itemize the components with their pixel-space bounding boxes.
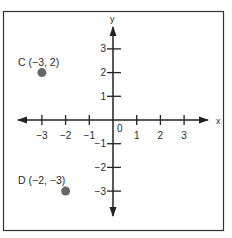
y-axis-label: y xyxy=(110,14,115,24)
y-tick-label: 3 xyxy=(100,43,106,54)
y-tick-label: 1 xyxy=(100,91,106,102)
y-tick-label: −2 xyxy=(95,162,107,173)
origin-label: 0 xyxy=(117,123,123,134)
x-axis-label: x xyxy=(216,116,221,126)
x-tick-label: −3 xyxy=(36,130,48,141)
point-c-marker xyxy=(37,68,46,77)
point-c-label: C (−3, 2) xyxy=(18,56,59,68)
y-tick-label: −1 xyxy=(95,138,107,149)
x-tick-label: −2 xyxy=(60,130,72,141)
y-tick-label: 2 xyxy=(100,67,106,78)
point-d-label: D (−2, −3) xyxy=(18,174,65,186)
y-tick-label: −3 xyxy=(95,186,107,197)
point-d-marker xyxy=(61,187,70,196)
x-tick-label: 1 xyxy=(134,130,140,141)
coordinate-plane-figure: −3−2−1123 321−1−2−3 x y 0 C (−3, 2)D (−2… xyxy=(0,0,232,238)
x-tick-label: 2 xyxy=(158,130,164,141)
x-tick-label: 3 xyxy=(181,130,187,141)
coordinate-plane-svg: −3−2−1123 321−1−2−3 x y 0 C (−3, 2)D (−2… xyxy=(0,0,232,238)
